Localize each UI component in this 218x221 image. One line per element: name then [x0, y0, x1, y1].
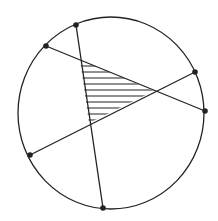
point-P6: [100, 205, 106, 211]
point-P5: [27, 152, 33, 158]
circle-chords-diagram: [0, 0, 218, 221]
point-P1: [73, 22, 79, 28]
points: [27, 22, 208, 211]
point-P3: [192, 69, 198, 75]
diagram-canvas: [0, 0, 218, 221]
chord-P1-P6: [76, 25, 103, 208]
point-P2: [43, 43, 49, 49]
point-P4: [202, 108, 208, 114]
chords: [30, 25, 205, 208]
